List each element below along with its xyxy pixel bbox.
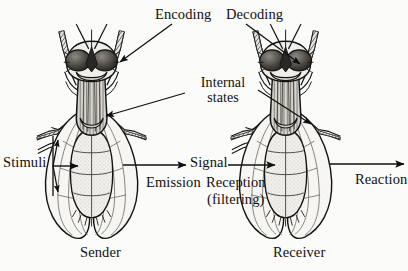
diagram-canvas [0, 0, 408, 271]
internal-states-line-2: states [207, 90, 239, 105]
label-stimuli: Stimuli [3, 155, 46, 171]
label-reception: Reception [206, 175, 266, 191]
label-receiver: Receiver [273, 245, 325, 261]
label-filtering: (filtering) [207, 192, 264, 208]
label-signal: Signal [190, 155, 228, 171]
label-internal-states: Internal states [187, 75, 259, 105]
label-emission: Emission [146, 175, 201, 191]
internal-states-line-1: Internal [201, 75, 245, 90]
label-decoding: Decoding [226, 7, 283, 23]
label-sender: Sender [80, 245, 121, 261]
label-encoding: Encoding [155, 7, 211, 23]
sender-fly-illustration [37, 24, 146, 238]
communication-diagram: Encoding Decoding Internal states Stimul… [0, 0, 408, 271]
encoding-leader-line [120, 24, 172, 62]
internal-states-leader-left [106, 93, 185, 116]
label-reaction: Reaction [355, 172, 407, 188]
